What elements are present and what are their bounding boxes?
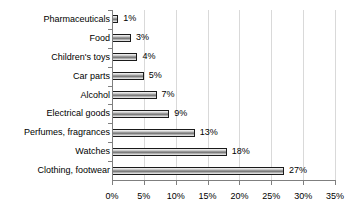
x-axis-tick xyxy=(112,181,113,185)
y-axis-tick xyxy=(108,123,112,124)
bar-row[interactable]: 5% xyxy=(112,72,335,80)
bar-value-label: 4% xyxy=(142,50,155,63)
category-label: Pharmaceuticals xyxy=(0,14,110,25)
x-axis-tick xyxy=(176,181,177,185)
category-label: Electrical goods xyxy=(0,108,110,119)
category-label: Food xyxy=(0,33,110,44)
bar-value-label: 3% xyxy=(136,31,149,44)
y-axis-line xyxy=(112,10,113,181)
bar-perfumes-fragrances[interactable] xyxy=(112,129,195,137)
bar-row[interactable]: 7% xyxy=(112,91,335,99)
bar-food[interactable] xyxy=(112,34,131,42)
x-axis-tick xyxy=(239,181,240,185)
y-axis-tick xyxy=(108,48,112,49)
x-axis-tick-label: 35% xyxy=(315,190,353,202)
category-label: Children's toys xyxy=(0,52,110,63)
bar-value-label: 1% xyxy=(123,12,136,25)
bar-value-label: 9% xyxy=(174,107,187,120)
y-axis-tick xyxy=(108,142,112,143)
bar-children-s-toys[interactable] xyxy=(112,53,137,61)
bar-electrical-goods[interactable] xyxy=(112,110,169,118)
bar-row[interactable]: 1% xyxy=(112,15,335,23)
bar-value-label: 18% xyxy=(232,145,250,158)
y-axis-tick xyxy=(108,86,112,87)
bar-clothing-footwear[interactable] xyxy=(112,167,284,175)
y-axis-tick xyxy=(108,161,112,162)
x-axis-tick xyxy=(271,181,272,185)
x-axis-tick xyxy=(335,181,336,185)
bar-row[interactable]: 18% xyxy=(112,148,335,156)
bar-row[interactable]: 4% xyxy=(112,53,335,61)
bar-alcohol[interactable] xyxy=(112,91,157,99)
bar-row[interactable]: 13% xyxy=(112,129,335,137)
category-label: Watches xyxy=(0,146,110,157)
bar-value-label: 7% xyxy=(162,88,175,101)
bar-row[interactable]: 9% xyxy=(112,110,335,118)
y-axis-tick xyxy=(108,29,112,30)
y-axis-tick xyxy=(108,104,112,105)
plot-area: 1%3%4%5%7%9%13%18%27% xyxy=(112,10,335,180)
x-axis-tick xyxy=(303,181,304,185)
bar-value-label: 27% xyxy=(289,164,307,177)
bar-chart: 1%3%4%5%7%9%13%18%27% PharmaceuticalsFoo… xyxy=(0,0,353,210)
category-label: Alcohol xyxy=(0,90,110,101)
x-axis-tick xyxy=(208,181,209,185)
bar-row[interactable]: 3% xyxy=(112,34,335,42)
bar-watches[interactable] xyxy=(112,148,227,156)
category-label: Car parts xyxy=(0,71,110,82)
category-label: Perfumes, fragrances xyxy=(0,127,110,138)
gridline-35% xyxy=(335,10,336,180)
y-axis-tick xyxy=(108,10,112,11)
y-axis-tick xyxy=(108,67,112,68)
x-axis-tick xyxy=(144,181,145,185)
bar-row[interactable]: 27% xyxy=(112,167,335,175)
bar-value-label: 5% xyxy=(149,69,162,82)
bar-car-parts[interactable] xyxy=(112,72,144,80)
bar-value-label: 13% xyxy=(200,126,218,139)
category-label: Clothing, footwear xyxy=(0,165,110,176)
